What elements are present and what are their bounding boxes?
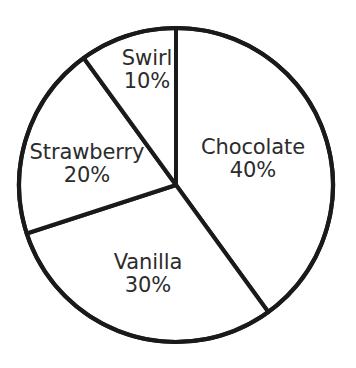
pie-label-vanilla-name: Vanilla	[90, 251, 206, 274]
pie-label-swirl-name: Swirl	[112, 47, 182, 70]
pie-label-chocolate-name: Chocolate	[190, 136, 316, 159]
pie-label-strawberry-value: 20%	[28, 164, 146, 187]
pie-label-swirl-value: 10%	[112, 70, 182, 93]
pie-label-chocolate-value: 40%	[190, 159, 316, 182]
pie-label-chocolate: Chocolate 40%	[190, 136, 316, 181]
pie-label-vanilla-value: 30%	[90, 274, 206, 297]
pie-chart-figure: Chocolate 40% Vanilla 30% Strawberry 20%…	[0, 0, 356, 368]
pie-label-strawberry: Strawberry 20%	[28, 141, 146, 186]
pie-label-vanilla: Vanilla 30%	[90, 251, 206, 296]
pie-label-strawberry-name: Strawberry	[28, 141, 146, 164]
pie-label-swirl: Swirl 10%	[112, 47, 182, 92]
